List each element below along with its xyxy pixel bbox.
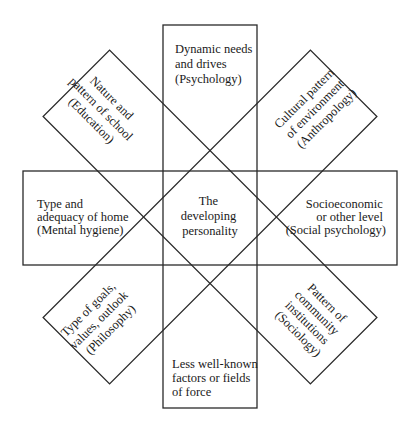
developing-personality-diagram: The developing personality Dynamic needs… <box>0 0 420 431</box>
factor-top-line-1: Dynamic needs <box>175 42 253 56</box>
factor-psychology-label: Dynamic needs and drives (Psychology) <box>175 42 256 86</box>
center-label: The developing personality <box>181 194 240 238</box>
factor-social-psychology-label: Socioeconomic or other level (Social psy… <box>286 197 386 237</box>
center-line-2: developing <box>181 209 237 223</box>
factor-sociology-label: Pattern of community institutions (Socio… <box>272 278 354 360</box>
factor-left-line-3: (Mental hygiene) <box>37 223 123 237</box>
factor-bottom-line-1: Less well-known <box>172 357 258 371</box>
factor-left-line-2: adequacy of home <box>37 210 129 224</box>
factor-right-line-3: (Social psychology) <box>286 223 386 237</box>
factor-left-line-1: Type and <box>37 197 84 211</box>
factor-bottom-line-3: of force <box>172 385 212 399</box>
factor-right-line-2: or other level <box>316 210 383 224</box>
factor-right-line-1: Socioeconomic <box>306 197 384 211</box>
center-line-1: The <box>199 194 219 208</box>
factor-bottom-line-2: factors or fields <box>172 371 251 385</box>
factor-top-line-2: and drives <box>175 57 227 71</box>
factor-mental-hygiene-label: Type and adequacy of home (Mental hygien… <box>37 197 132 237</box>
factor-less-known-label: Less well-known factors or fields of for… <box>172 357 261 399</box>
center-line-3: personality <box>182 224 238 238</box>
factor-philosophy-label: Type of goals, values, outlook (Philosop… <box>56 275 143 362</box>
factor-top-line-3: (Psychology) <box>175 72 242 86</box>
